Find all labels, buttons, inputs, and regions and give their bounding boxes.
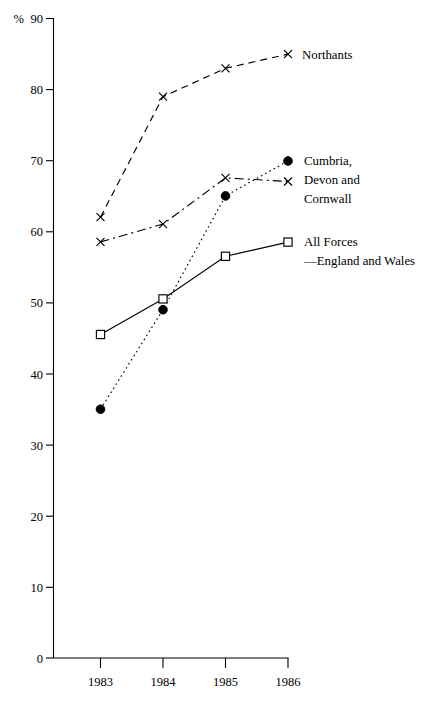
y-tick-label-20: 20 bbox=[31, 510, 44, 524]
series-devon-and-cornwall bbox=[97, 174, 293, 246]
y-tick-label-40: 40 bbox=[31, 368, 44, 382]
series-cumbria: Cumbria, Devon and Cornwall bbox=[96, 154, 360, 414]
y-tick-label-30: 30 bbox=[31, 439, 44, 453]
series-label-allforces-line1: All Forces bbox=[304, 235, 358, 249]
marker-northants-1983 bbox=[97, 213, 105, 221]
series-label-allforces-line2: —England and Wales bbox=[303, 254, 415, 268]
x-tick-label-1984: 1984 bbox=[151, 675, 177, 689]
x-tick-label-1986: 1986 bbox=[276, 675, 301, 689]
marker-allforces-1983 bbox=[96, 330, 104, 338]
marker-devon-1985 bbox=[222, 174, 230, 182]
y-axis-unit-label: % bbox=[14, 12, 24, 26]
x-axis-ticks bbox=[101, 658, 289, 668]
y-tick-label-10: 10 bbox=[31, 581, 44, 595]
marker-northants-1985 bbox=[222, 64, 230, 72]
y-axis-tick-labels: 90 80 70 60 50 40 30 20 10 0 % bbox=[14, 12, 43, 666]
y-tick-label-60: 60 bbox=[31, 225, 44, 239]
marker-cumbria-1985 bbox=[221, 192, 230, 201]
x-axis-tick-labels: 1983 1984 1985 1986 bbox=[88, 675, 301, 689]
marker-devon-1984 bbox=[159, 220, 167, 228]
series-label-cumbria-line3: Cornwall bbox=[304, 192, 352, 206]
marker-allforces-1986 bbox=[284, 238, 292, 246]
series-all-forces-markers bbox=[96, 238, 292, 339]
x-tick-label-1985: 1985 bbox=[213, 675, 238, 689]
y-axis-ticks bbox=[46, 19, 54, 659]
marker-northants-1986 bbox=[284, 50, 292, 58]
y-tick-label-0: 0 bbox=[37, 652, 43, 666]
marker-northants-1984 bbox=[159, 93, 167, 101]
marker-cumbria-1983 bbox=[96, 405, 105, 414]
x-tick-label-1983: 1983 bbox=[88, 675, 113, 689]
series-cumbria-line bbox=[101, 161, 289, 409]
marker-allforces-1985 bbox=[221, 252, 229, 260]
chart-canvas: 90 80 70 60 50 40 30 20 10 0 % 1983 1984… bbox=[0, 0, 430, 716]
marker-devon-1986 bbox=[284, 178, 292, 186]
marker-allforces-1984 bbox=[159, 295, 167, 303]
marker-cumbria-legend bbox=[284, 157, 293, 166]
y-tick-label-80: 80 bbox=[31, 83, 44, 97]
series-devon-and-cornwall-line bbox=[101, 178, 289, 242]
y-tick-label-90: 90 bbox=[31, 12, 44, 26]
series-northants-markers bbox=[97, 50, 293, 221]
series-label-northants: Northants bbox=[302, 48, 352, 62]
series-label-cumbria-line1: Cumbria, bbox=[304, 154, 352, 168]
series-northants-line bbox=[101, 54, 289, 217]
series-label-cumbria-line2: Devon and bbox=[304, 173, 360, 187]
line-chart-figure: 90 80 70 60 50 40 30 20 10 0 % 1983 1984… bbox=[0, 0, 430, 716]
marker-cumbria-1984 bbox=[159, 305, 168, 314]
y-tick-label-50: 50 bbox=[31, 296, 44, 310]
y-tick-label-70: 70 bbox=[31, 154, 44, 168]
series-cumbria-markers bbox=[96, 157, 292, 414]
series-all-forces-line bbox=[101, 242, 289, 334]
series-all-forces: All Forces —England and Wales bbox=[96, 235, 415, 339]
marker-devon-1983 bbox=[97, 238, 105, 246]
